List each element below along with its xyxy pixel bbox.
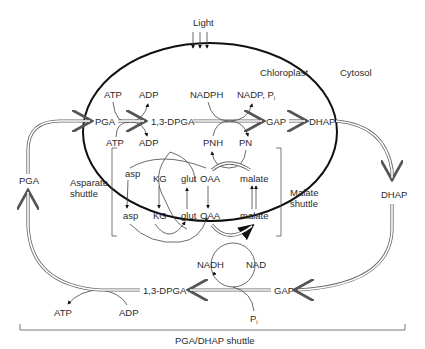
glut-outer-label: glut [181, 210, 197, 221]
oaa-malate-outer-arc [212, 225, 252, 235]
nadph-label: NADPH [190, 89, 223, 100]
pga-dhap-shuttle-bracket [20, 324, 405, 330]
dpga-to-pga-arrow [28, 190, 140, 290]
pga-dhap-shuttle-diagram: Light Chloroplast Cytosol ATP ADP PGA 1,… [0, 0, 425, 349]
cytosol-dhap-label: DHAP [381, 189, 407, 200]
atp-adp-bottom-arrow-icon [116, 122, 147, 137]
pnh-label: PNH [203, 137, 223, 148]
chloroplast-gap-label: GAP [266, 116, 286, 127]
atp-adp-top-arrow-icon [113, 102, 148, 122]
malate-shuttle-bracket [276, 148, 281, 236]
light-label: Light [193, 17, 214, 28]
kg-glut-arc-icon [155, 222, 185, 234]
pn-arrow-icon [213, 121, 248, 136]
malate-inner-label: malate [240, 173, 269, 184]
inner-cycle-arc [130, 159, 206, 168]
cytosol-gap-label: GAP [274, 285, 294, 296]
nad-label: NAD [246, 259, 266, 270]
outer-cycle-arc-icon [130, 218, 207, 242]
asparate-shuttle-label-1: Asparate [70, 177, 108, 188]
asp-inner-label: asp [125, 168, 140, 179]
malate-shuttle-label-1: Malate [290, 187, 319, 198]
chloroplast-pga-label: PGA [95, 116, 116, 127]
adp-bottom-label: ADP [139, 137, 159, 148]
malate-shuttle-label-2: shuttle [290, 198, 318, 209]
asparate-shuttle-label-2: shuttle [70, 188, 98, 199]
kg-outer-label: KG [153, 210, 167, 221]
cytosol-dpga-label: 1,3-DPGA [143, 285, 187, 296]
dhap-export-arrow [336, 121, 392, 180]
oaa-outer-label: OAA [200, 210, 221, 221]
adp-atp-arrow-icon [68, 290, 127, 305]
asp-outer-label: asp [123, 210, 138, 221]
cytosol-atp-label: ATP [54, 307, 72, 318]
chloroplast-label: Chloroplast [260, 67, 308, 78]
pi-label: Pi [250, 313, 258, 325]
oaa-inner-label: OAA [200, 173, 221, 184]
chloroplast-dpga-label: 1,3-DPGA [151, 116, 195, 127]
pga-dhap-shuttle-label: PGA/DHAP shuttle [175, 335, 255, 346]
nadh-label: NADH [197, 259, 224, 270]
atp-top-label: ATP [104, 89, 122, 100]
cytosol-label: Cytosol [340, 67, 372, 78]
dhap-to-gap-arrow [294, 204, 392, 290]
kg-inner-label: KG [153, 173, 167, 184]
nadph-nadp-arrow-icon [208, 102, 252, 121]
atp-bottom-label: ATP [106, 137, 124, 148]
chloroplast-dhap-label: DHAP [309, 116, 335, 127]
cytosol-adp-label: ADP [119, 307, 139, 318]
adp-top-label: ADP [139, 89, 159, 100]
nadp-pi-label: NADP, Pi [237, 89, 275, 101]
pn-label: PN [239, 137, 252, 148]
asp-transport-arrow-icon [127, 180, 128, 208]
malate-outer-label: malate [240, 210, 269, 221]
cytosol-pga-label: PGA [19, 175, 40, 186]
